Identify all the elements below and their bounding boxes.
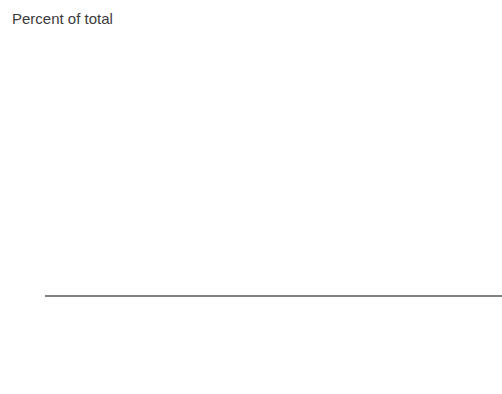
stacked-bar-chart: Percent of total bbox=[0, 0, 502, 394]
bars-layer bbox=[0, 82, 502, 312]
axis-title: Percent of total bbox=[12, 10, 113, 27]
chart-legend: Percent of total bbox=[0, 0, 502, 82]
plot-area bbox=[0, 82, 502, 312]
x-axis-labels bbox=[0, 312, 502, 394]
